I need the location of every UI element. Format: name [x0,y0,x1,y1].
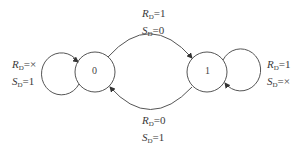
self-loop-0-arrow [41,53,79,95]
self-loop-0-r-line: RD=× [12,58,36,75]
transition-1-to-0-r-line: RD=0 [142,114,166,131]
transition-1-to-0-arrow [110,87,192,110]
transition-0-to-1-label: RD=1 SD=0 [142,7,166,41]
transition-0-to-1-s-line: SD=0 [142,24,166,41]
self-loop-1-s-line: SD=× [267,75,291,92]
self-loop-0-label: RD=× SD=1 [12,58,36,92]
state-0-label: 0 [92,65,97,76]
self-loop-1-arrow [223,49,261,91]
transition-0-to-1-r-line: RD=1 [142,7,166,24]
transition-1-to-0-s-line: SD=1 [142,131,166,147]
state-1-label: 1 [205,65,210,76]
self-loop-1-label: RD=1 SD=× [267,58,291,92]
self-loop-1-r-line: RD=1 [267,58,291,75]
self-loop-0-s-line: SD=1 [12,75,36,92]
transition-1-to-0-label: RD=0 SD=1 [142,114,166,147]
